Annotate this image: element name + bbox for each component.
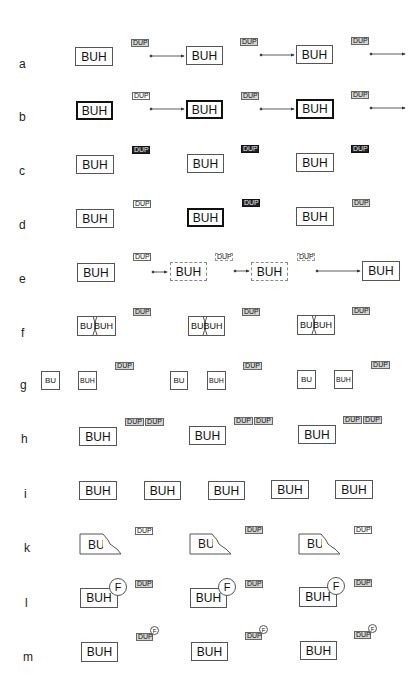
buh-box: BUH: [300, 641, 337, 660]
dup-tag: DUP: [136, 633, 153, 641]
dup-tag: DUP: [354, 631, 371, 639]
f-circle: F: [109, 578, 127, 596]
buh-box-bold: BUH: [187, 208, 224, 227]
dup-tag: DUP: [133, 308, 151, 316]
buh-box: BUH: [76, 155, 114, 174]
buh-box-dashed: BUH: [251, 262, 288, 281]
row-label-b: b: [19, 110, 26, 124]
buh-part: BUH: [313, 320, 332, 330]
buh-box: BUH: [76, 209, 114, 228]
dup-tag: DUP: [245, 580, 263, 588]
split-buh-box: BU BUH: [297, 315, 335, 335]
bu-part: BU: [80, 321, 93, 331]
buh-box: BUH: [191, 642, 228, 661]
dup-tag: DUP: [352, 199, 370, 207]
dup-tag: DUP: [242, 308, 260, 316]
dup-tag-dark: DUP: [241, 145, 259, 153]
bu-box: BU: [41, 371, 60, 390]
f-circle-small: F: [259, 625, 268, 634]
dup-tag-dark: DUP: [351, 145, 369, 153]
f-circle-small: F: [150, 626, 159, 635]
dup-tag: DUP: [131, 39, 149, 47]
buh-box-dashed: BUH: [170, 262, 207, 281]
dup-tag: DUP: [135, 580, 153, 588]
buh-box: BUH: [81, 642, 118, 662]
row-label-d: d: [19, 218, 26, 232]
dup-tag: DUP: [133, 200, 151, 208]
buh-box: BUH: [271, 480, 309, 499]
dup-tag-dark: DUP: [132, 146, 150, 154]
dup-tag: DUP: [135, 527, 153, 535]
row-label-e: e: [19, 272, 26, 286]
torn-buh-label: BUH: [307, 537, 322, 551]
row-label-m: m: [23, 650, 33, 664]
torn-buh-label: BUH: [198, 537, 213, 551]
dup-tag: DUP: [243, 362, 262, 370]
dup-tag: DUP: [371, 361, 390, 369]
buh-box: BUH: [296, 45, 333, 64]
buh-box: BUH: [189, 426, 226, 445]
dup-tag-dark: DUP: [242, 199, 260, 207]
dup-tag: DUP: [133, 253, 151, 261]
buh-box: BUH: [79, 481, 117, 500]
dup-tag: DUP: [115, 362, 134, 370]
buh-box-bold: BUH: [186, 100, 223, 119]
row-label-g: g: [20, 378, 27, 392]
dup-tag: DUP: [240, 38, 258, 46]
buh-box: BUH: [208, 481, 245, 500]
buh-box: BUH: [296, 207, 334, 226]
f-circle: F: [327, 577, 345, 595]
buh-box: BUH: [77, 263, 115, 282]
row-label-i: i: [24, 487, 27, 501]
row-label-a: a: [19, 57, 26, 71]
bu-box: BU: [297, 370, 316, 389]
buh-part: BUH: [204, 321, 223, 331]
f-circle: F: [218, 578, 236, 596]
dup-tag: DUP: [234, 417, 253, 425]
dup-tag: DUP: [125, 418, 144, 426]
bu-box: BU: [170, 371, 188, 390]
dup-tag: DUP: [354, 579, 372, 587]
buh-box: BUH: [296, 153, 334, 172]
buh-box: BUH: [298, 425, 336, 444]
f-circle-small: F: [368, 624, 377, 633]
dup-tag: DUP: [254, 417, 273, 425]
dup-tag: DUP: [343, 416, 362, 424]
buh-box: BUH: [187, 154, 224, 173]
buh-box-bold: BUH: [76, 101, 113, 120]
buh-box: BUH: [335, 480, 373, 499]
dup-tag: DUP: [245, 526, 263, 534]
buh-box-small: BUH: [207, 371, 226, 390]
dup-tag: DUP: [354, 526, 372, 534]
buh-box-small: BUH: [78, 371, 97, 390]
dup-tag: DUP: [351, 91, 369, 99]
buh-part: BUH: [94, 321, 113, 331]
dup-tag: DUP: [363, 416, 382, 424]
row-label-k: k: [24, 541, 30, 555]
buh-box: BUH: [144, 481, 181, 500]
dup-tag: DUP: [351, 37, 369, 45]
buh-box: BUH: [362, 261, 400, 281]
row-label-h: h: [21, 432, 28, 446]
buh-box-small: BUH: [334, 370, 353, 389]
buh-box-bold: BUH: [296, 99, 334, 119]
row-label-c: c: [19, 164, 25, 178]
bu-part: BU: [191, 321, 204, 331]
split-buh-box: BU BUH: [188, 316, 225, 336]
dup-tag: DUP: [245, 632, 262, 640]
dup-tag: DUP: [145, 418, 164, 426]
dup-tag: DUP: [241, 92, 259, 100]
dup-tag: DUP: [352, 307, 370, 315]
row-label-l: l: [25, 596, 28, 610]
split-buh-box: BU BUH: [77, 316, 116, 336]
dup-tag-dashed: DUP: [215, 253, 233, 261]
torn-buh-label: BUH: [88, 538, 103, 552]
row-label-f: f: [21, 326, 24, 340]
buh-box: BUH: [79, 427, 117, 446]
bu-part: BU: [300, 320, 313, 330]
buh-box: BUH: [75, 47, 113, 66]
dup-tag: DUP: [132, 92, 150, 100]
dup-tag-dashed: DUP: [297, 253, 315, 261]
buh-box: BUH: [186, 46, 223, 65]
